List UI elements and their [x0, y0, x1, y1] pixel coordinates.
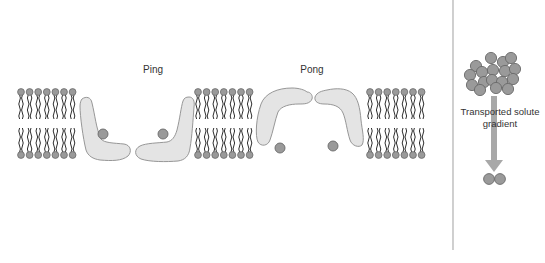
lipid-head	[246, 89, 253, 96]
lipid-head	[229, 152, 236, 159]
lipid-head	[220, 89, 227, 96]
lipid-head	[203, 152, 210, 159]
lipid-head	[392, 89, 399, 96]
lipid-head	[35, 152, 42, 159]
lipid-head	[43, 152, 50, 159]
lipid-head	[367, 152, 374, 159]
ping-label: Ping	[143, 65, 163, 75]
lipid-head	[410, 89, 417, 96]
lipid-head	[195, 89, 202, 96]
lipid-head	[18, 89, 25, 96]
lipid-head	[384, 152, 391, 159]
ping-pong-transporter-diagram	[0, 0, 545, 263]
pong-solute	[275, 143, 285, 153]
lipid-head	[229, 89, 236, 96]
gradient-label-line2: gradient	[461, 118, 540, 130]
lipid-head	[375, 89, 382, 96]
lipid-head	[195, 152, 202, 159]
ping-solute	[158, 129, 168, 139]
solute-high	[487, 64, 498, 75]
solute-high	[476, 66, 487, 77]
lipid-head	[367, 89, 374, 96]
lipid-head	[238, 89, 245, 96]
lipid-head	[26, 152, 33, 159]
lipid-head	[220, 152, 227, 159]
lipid-head	[375, 152, 382, 159]
lipid-head	[43, 89, 50, 96]
ping-solute	[98, 129, 108, 139]
lipid-head	[410, 152, 417, 159]
lipid-head	[61, 152, 68, 159]
lipid-head	[418, 152, 425, 159]
solute-high	[502, 83, 513, 94]
lipid-head	[35, 89, 42, 96]
gradient-label: Transported solute gradient	[461, 106, 540, 130]
lipid-head	[18, 152, 25, 159]
solute-high	[490, 82, 501, 93]
solute-low	[495, 174, 506, 185]
pong-label: Pong	[300, 65, 323, 75]
solute-high	[474, 84, 485, 95]
lipid-head	[212, 89, 219, 96]
solute-high	[509, 63, 520, 74]
solute-high	[507, 73, 518, 84]
lipid-head	[392, 152, 399, 159]
lipid-head	[203, 89, 210, 96]
lipid-head	[401, 152, 408, 159]
solute-low	[484, 174, 495, 185]
lipid-head	[26, 89, 33, 96]
lipid-head	[52, 89, 59, 96]
solute-high	[464, 69, 475, 80]
lipid-head	[52, 152, 59, 159]
lipid-head	[69, 152, 76, 159]
lipid-head	[61, 89, 68, 96]
pong-solute	[328, 141, 338, 151]
lipid-head	[401, 89, 408, 96]
lipid-head	[69, 89, 76, 96]
lipid-head	[418, 89, 425, 96]
gradient-label-line1: Transported solute	[461, 106, 540, 118]
lipid-head	[246, 152, 253, 159]
solute-high	[505, 52, 516, 63]
solute-high	[485, 52, 496, 63]
lipid-head	[384, 89, 391, 96]
lipid-head	[238, 152, 245, 159]
lipid-head	[212, 152, 219, 159]
